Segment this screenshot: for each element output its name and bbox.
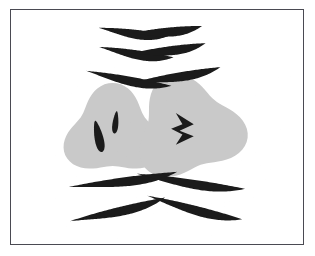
vortex-shading-right-vortex bbox=[140, 75, 248, 178]
cusp-fold-lower-right-cusp bbox=[135, 67, 220, 82]
cusp-fold-top-left-cusp bbox=[70, 198, 165, 222]
warped-mesh-plot bbox=[11, 10, 303, 244]
cusp-fold-upper-band-right bbox=[137, 174, 245, 192]
figure-root bbox=[0, 0, 315, 256]
figure-frame bbox=[10, 9, 304, 245]
cusp-fold-top-right-cusp bbox=[147, 196, 242, 221]
cusp-fold-bottom-right-wing bbox=[131, 43, 206, 55]
shading-layer bbox=[64, 75, 248, 178]
